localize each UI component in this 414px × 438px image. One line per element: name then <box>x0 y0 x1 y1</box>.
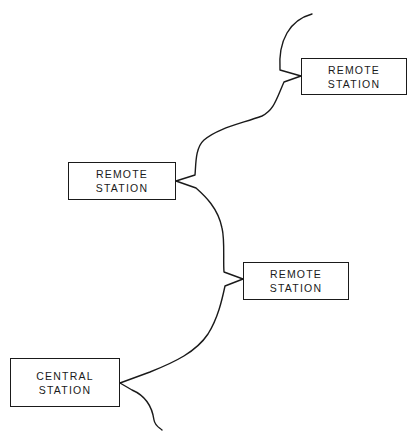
node-label-line2: STATION <box>270 281 322 295</box>
node-label-line1: REMOTE <box>270 267 322 281</box>
remote-station-1: REMOTE STATION <box>301 58 407 95</box>
remote-station-3: REMOTE STATION <box>243 262 349 300</box>
line-bottom-lead <box>120 383 162 430</box>
line-remote3-central <box>120 279 243 383</box>
node-label-line2: STATION <box>328 77 380 91</box>
central-station: CENTRAL STATION <box>10 358 120 407</box>
node-label-line1: REMOTE <box>328 63 380 77</box>
node-label-line1: CENTRAL <box>36 369 93 383</box>
node-label-line1: REMOTE <box>96 167 148 181</box>
line-remote2-remote3 <box>176 181 243 279</box>
remote-station-2: REMOTE STATION <box>68 162 176 200</box>
node-label-line2: STATION <box>96 181 148 195</box>
node-label-line2: STATION <box>39 383 91 397</box>
line-remote1-remote2 <box>176 76 301 181</box>
